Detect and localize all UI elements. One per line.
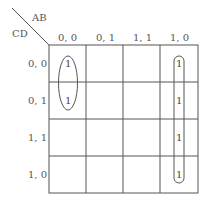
col-header: 1, 0: [170, 32, 189, 43]
cell-value: 1: [176, 132, 182, 143]
cell-value: 1: [65, 58, 71, 69]
row-header: 1, 1: [28, 132, 47, 143]
cell-value: 1: [176, 169, 182, 180]
col-header: 0, 0: [58, 32, 77, 43]
row-header: 1, 0: [28, 169, 47, 180]
cell-value: 1: [65, 95, 71, 106]
row-header: 0, 0: [28, 58, 47, 69]
col-header: 0, 1: [96, 32, 115, 43]
col-var-label: AB: [32, 12, 47, 23]
row-var-label: CD: [12, 28, 28, 39]
cell-value: 1: [176, 95, 182, 106]
col-header: 1, 1: [133, 32, 152, 43]
row-header: 0, 1: [28, 95, 47, 106]
cell-value: 1: [176, 58, 182, 69]
